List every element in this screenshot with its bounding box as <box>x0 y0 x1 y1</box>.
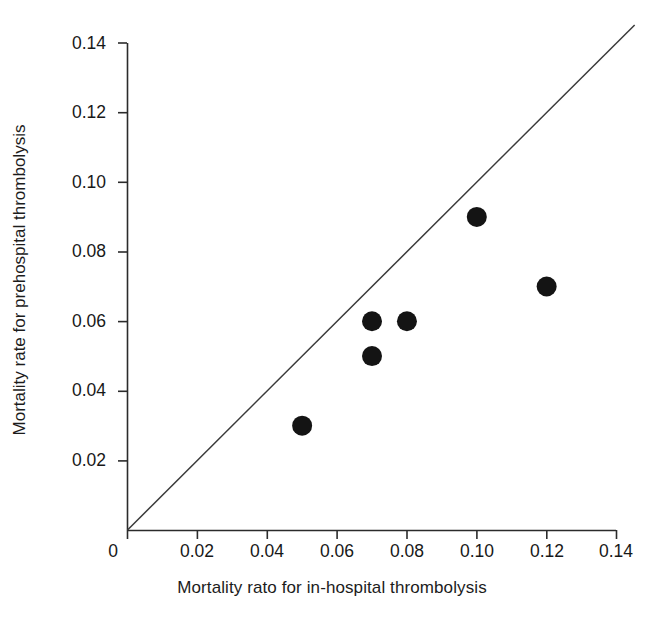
data-point[interactable] <box>292 416 312 436</box>
line-of-identity <box>128 25 635 530</box>
data-point[interactable] <box>467 207 487 227</box>
data-point[interactable] <box>537 277 557 297</box>
data-point-group <box>292 207 557 436</box>
y-axis-ticks <box>118 43 127 461</box>
plot-canvas <box>0 0 664 626</box>
scatter-plot-figure: Mortality rate for prehospital thromboly… <box>0 0 664 626</box>
data-point[interactable] <box>362 346 382 366</box>
x-axis-ticks <box>128 530 617 539</box>
data-point[interactable] <box>362 311 382 331</box>
data-point[interactable] <box>397 311 417 331</box>
